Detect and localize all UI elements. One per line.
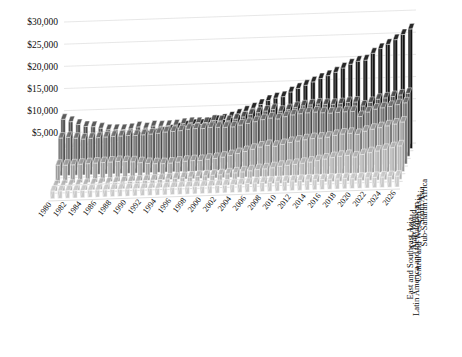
x-tick-label: 2010 bbox=[261, 193, 278, 211]
x-tick-label: 1980 bbox=[36, 201, 53, 219]
x-tick-label: 2002 bbox=[201, 195, 218, 213]
x-tick-label: 2022 bbox=[351, 190, 368, 208]
x-tick-label: 1982 bbox=[51, 200, 68, 218]
x-tick-label: 1990 bbox=[111, 198, 128, 216]
x-tick-label: 1988 bbox=[96, 199, 113, 217]
x-tick-label: 2026 bbox=[381, 189, 398, 207]
chart-container: $30,000$25,000$20,000$15,000$10,000$5,00… bbox=[0, 0, 462, 357]
x-tick-label: 1986 bbox=[81, 199, 98, 217]
x-tick-label: 1996 bbox=[156, 196, 173, 214]
y-tick-label: $30,000 bbox=[27, 17, 58, 27]
y-tick-label: $15,000 bbox=[27, 84, 58, 94]
x-tick-label: 2024 bbox=[366, 189, 383, 207]
x-tick-label: 2012 bbox=[276, 192, 293, 210]
x-tick-label: 2000 bbox=[186, 195, 203, 213]
y-tick-label: $5,000 bbox=[32, 128, 58, 138]
x-tick-label: 2020 bbox=[336, 190, 353, 208]
column-chart-3d: $30,000$25,000$20,000$15,000$10,000$5,00… bbox=[0, 0, 462, 357]
x-tick-label: 1994 bbox=[141, 197, 158, 215]
x-tick-label: 1992 bbox=[126, 197, 143, 215]
x-tick-label: 1984 bbox=[66, 200, 83, 218]
y-axis-labels: $30,000$25,000$20,000$15,000$10,000$5,00… bbox=[27, 17, 58, 138]
bars bbox=[50, 23, 414, 198]
x-tick-label: 2018 bbox=[321, 191, 338, 209]
x-tick-label: 2014 bbox=[291, 192, 308, 210]
x-tick-label: 2016 bbox=[306, 191, 323, 209]
x-tick-label: 1998 bbox=[171, 196, 188, 214]
series-label: East and Southeast Asia bbox=[405, 217, 415, 300]
x-tick-label: 2006 bbox=[231, 194, 248, 212]
y-tick-label: $20,000 bbox=[27, 62, 58, 72]
x-tick-label: 2008 bbox=[246, 193, 263, 211]
x-tick-label: 2004 bbox=[216, 194, 233, 212]
series-labels: Sub-Saharan AfricaSouth AsiaCentral and … bbox=[405, 179, 428, 316]
y-tick-label: $10,000 bbox=[27, 106, 58, 116]
y-tick-label: $25,000 bbox=[27, 40, 58, 50]
